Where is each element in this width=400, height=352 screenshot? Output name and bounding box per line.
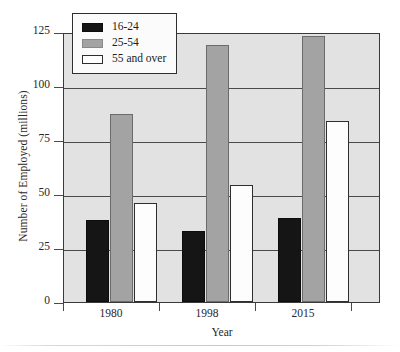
bar-2015-16-24 — [278, 218, 301, 302]
y-axis-tick-mark — [54, 33, 63, 34]
legend-label: 16-24 — [112, 21, 139, 33]
y-axis-tick-mark — [54, 87, 63, 88]
bar-chart-figure: Number of Employed (millions) Year 16-24… — [0, 0, 400, 352]
x-axis-tick-label: 1998 — [159, 307, 255, 319]
legend-item: 16-24 — [82, 19, 166, 35]
x-axis-tick-mark — [351, 303, 352, 311]
y-axis-tick-label: 50 — [39, 187, 51, 199]
x-axis-title: Year — [63, 326, 381, 338]
legend: 16-2425-5455 and over — [72, 13, 177, 74]
bar-2015-25-54 — [302, 36, 325, 302]
y-axis-tick-label: 25 — [39, 241, 51, 253]
y-axis-tick-label: 125 — [33, 25, 50, 37]
x-axis-tick-label: 1980 — [63, 307, 159, 319]
bar-1980-16-24 — [86, 220, 109, 302]
legend-label: 25-54 — [112, 37, 139, 49]
legend-label: 55 and over — [112, 53, 166, 65]
legend-item: 25-54 — [82, 35, 166, 51]
y-axis-title: Number of Employed (millions) — [17, 61, 29, 271]
bar-1980-25-54 — [110, 114, 133, 302]
bar-1998-25-54 — [206, 45, 229, 302]
legend-item: 55 and over — [82, 51, 166, 67]
y-axis-tick-mark — [54, 141, 63, 142]
bar-1998-16-24 — [182, 231, 205, 302]
y-axis-tick-label: 75 — [39, 133, 51, 145]
legend-swatch — [82, 23, 103, 32]
y-axis-tick-label: 100 — [33, 79, 50, 91]
y-axis-tick-mark — [54, 195, 63, 196]
scan-artifact-line — [0, 345, 400, 346]
bar-1980-55-and-over — [134, 203, 157, 302]
bar-2015-55-and-over — [326, 121, 349, 302]
y-axis-tick-mark — [54, 249, 63, 250]
y-axis-tick-label: 0 — [44, 295, 50, 307]
y-axis-tick-mark — [54, 303, 63, 304]
legend-swatch — [82, 55, 103, 64]
bar-1998-55-and-over — [230, 185, 253, 302]
x-axis-tick-label: 2015 — [255, 307, 351, 319]
legend-swatch — [82, 39, 103, 48]
